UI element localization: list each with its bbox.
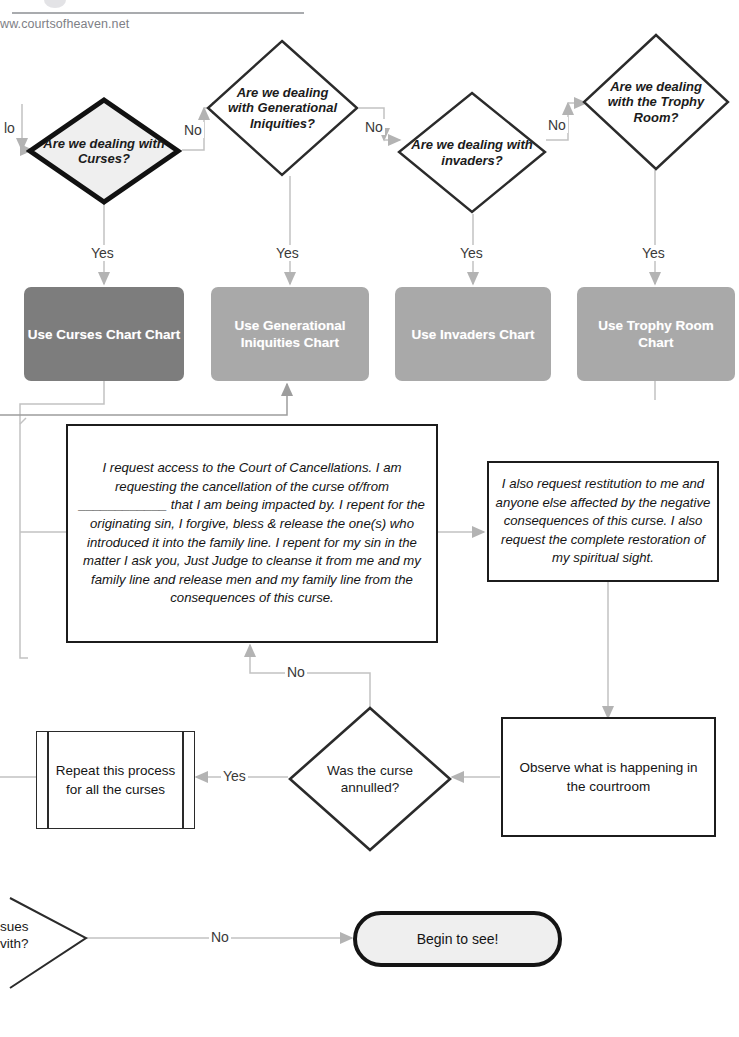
- flowchart-page: ww.courtsofheaven.net: [0, 0, 739, 1037]
- box-restitution-prayer-text: I also request restitution to me and any…: [495, 475, 711, 568]
- circle-logo-icon: [44, 0, 66, 8]
- edge-label-no-bottom: No: [209, 929, 231, 945]
- edge-label-yes-generational: Yes: [274, 245, 301, 261]
- edge-label-no-generational-invaders: No: [363, 119, 385, 135]
- edge-label-yes-curses: Yes: [89, 245, 116, 261]
- chart-box-trophy-room-label: Use Trophy Room Chart: [579, 317, 733, 351]
- box-restitution-prayer: I also request restitution to me and any…: [487, 461, 719, 582]
- box-cancellation-prayer: I request access to the Court of Cancell…: [66, 424, 438, 643]
- chart-box-invaders[interactable]: Use Invaders Chart: [395, 287, 551, 381]
- chart-box-generational[interactable]: Use Generational Iniquities Chart: [211, 287, 369, 381]
- decision-curse-annulled-label: Was the curse annulled?: [286, 705, 454, 853]
- decision-trophy-room-label: Are we dealing with the Trophy Room?: [581, 32, 731, 172]
- edge-label-yes-annulled: Yes: [221, 768, 248, 784]
- edge-label-no-curses-generational: No: [182, 122, 204, 138]
- decision-invaders[interactable]: Are we dealing with invaders?: [396, 90, 548, 215]
- decision-curse-annulled[interactable]: Was the curse annulled?: [286, 705, 454, 853]
- box-repeat-process-text: Repeat this process for all the curses: [53, 761, 178, 799]
- box-cancellation-prayer-text: I request access to the Court of Cancell…: [78, 459, 426, 608]
- decision-clipped-left-label: sues vith?: [0, 918, 48, 952]
- chart-box-trophy-room[interactable]: Use Trophy Room Chart: [577, 287, 735, 381]
- decision-invaders-label: Are we dealing with invaders?: [396, 90, 548, 215]
- decision-trophy-room[interactable]: Are we dealing with the Trophy Room?: [581, 32, 731, 172]
- decision-curses-label: Are we dealing with Curses?: [26, 96, 182, 206]
- edge-label-no-annulled: No: [285, 664, 307, 680]
- chart-box-curses-label: Use Curses Chart Chart: [28, 326, 180, 343]
- box-observe-courtroom-text: Observe what is happening in the courtro…: [513, 758, 704, 796]
- header-divider: [12, 12, 304, 14]
- edge-label-no-clipped-left: lo: [2, 120, 17, 136]
- chart-box-generational-label: Use Generational Iniquities Chart: [213, 317, 367, 351]
- edge-label-yes-trophy: Yes: [640, 245, 667, 261]
- chart-box-invaders-label: Use Invaders Chart: [411, 326, 534, 343]
- box-repeat-process: Repeat this process for all the curses: [36, 731, 195, 829]
- decision-generational-iniquities[interactable]: Are we dealing with Generational Iniquit…: [205, 38, 360, 178]
- site-url-text: ww.courtsofheaven.net: [0, 17, 200, 31]
- edge-label-yes-invaders: Yes: [458, 245, 485, 261]
- box-observe-courtroom: Observe what is happening in the courtro…: [501, 717, 716, 837]
- decision-generational-label: Are we dealing with Generational Iniquit…: [205, 38, 360, 178]
- terminator-begin-to-see-label: Begin to see!: [417, 931, 499, 947]
- decision-curses[interactable]: Are we dealing with Curses?: [26, 96, 182, 206]
- terminator-begin-to-see[interactable]: Begin to see!: [353, 911, 562, 967]
- chart-box-curses[interactable]: Use Curses Chart Chart: [24, 287, 184, 381]
- edge-label-no-invaders-trophy: No: [546, 117, 568, 133]
